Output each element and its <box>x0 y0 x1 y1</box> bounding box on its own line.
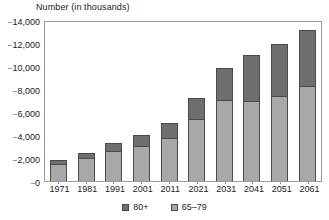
y-axis-tick-mark <box>13 160 17 161</box>
x-axis-tick-mark <box>280 181 281 184</box>
x-axis-tick-label: 1991 <box>105 184 122 198</box>
y-axis-tick-label: 0 <box>35 178 40 188</box>
bar-segment-65-79[interactable] <box>216 100 233 181</box>
bar-column[interactable] <box>216 22 233 181</box>
x-axis-tick-mark <box>86 181 87 184</box>
bar-segment-80-plus[interactable] <box>243 55 260 102</box>
legend-label: 65–79 <box>182 202 207 212</box>
legend-item[interactable]: 80+ <box>122 202 148 212</box>
bar-column[interactable] <box>243 22 260 181</box>
y-axis-tick-label: 14,000 <box>12 17 40 27</box>
bar-segment-65-79[interactable] <box>161 138 178 181</box>
bar-series-group <box>45 22 321 181</box>
x-axis-tick-mark <box>225 181 226 184</box>
y-axis-tick-mark <box>8 68 12 69</box>
chart-axis-title: Number (in thousands) <box>36 2 130 12</box>
bar-column[interactable] <box>105 22 122 181</box>
y-axis-tick-label: 10,000 <box>12 63 40 73</box>
bar-column[interactable] <box>271 22 288 181</box>
x-axis-tick-mark <box>141 181 142 184</box>
bar-column[interactable] <box>161 22 178 181</box>
bar-segment-65-79[interactable] <box>133 146 150 181</box>
bar-segment-80-plus[interactable] <box>188 98 205 119</box>
y-axis-tick-mark <box>8 45 12 46</box>
bar-segment-65-79[interactable] <box>243 101 260 181</box>
bar-column[interactable] <box>188 22 205 181</box>
y-axis-tick-label: 12,000 <box>12 40 40 50</box>
stacked-bar-chart: Number (in thousands) 14,00012,00010,000… <box>0 0 329 220</box>
legend-item[interactable]: 65–79 <box>171 202 207 212</box>
y-axis-tick-mark <box>8 22 12 23</box>
y-axis-tick-mark <box>13 137 17 138</box>
x-axis-tick-label: 2001 <box>133 184 150 198</box>
chart-legend: 80+65–79 <box>0 202 329 212</box>
y-axis-tick-mark <box>13 114 17 115</box>
bar-segment-65-79[interactable] <box>105 151 122 181</box>
bar-column[interactable] <box>133 22 150 181</box>
legend-label: 80+ <box>133 202 148 212</box>
x-axis-tick-mark <box>252 181 253 184</box>
x-axis-tick-mark <box>197 181 198 184</box>
bar-segment-80-plus[interactable] <box>299 30 316 86</box>
legend-swatch-icon <box>122 204 129 211</box>
x-axis-tick-label: 2051 <box>272 184 289 198</box>
x-axis-tick-label: 2061 <box>300 184 317 198</box>
x-axis-tick-mark <box>308 181 309 184</box>
x-axis: 1971198119912001201120212031204120512061 <box>44 184 322 198</box>
bar-column[interactable] <box>299 22 316 181</box>
y-axis-tick-mark <box>13 91 17 92</box>
x-axis-tick-label: 1971 <box>49 184 66 198</box>
bar-segment-80-plus[interactable] <box>133 135 150 146</box>
y-axis-tick-label: 8,000 <box>17 86 40 96</box>
x-axis-tick-mark <box>169 181 170 184</box>
bar-column[interactable] <box>50 22 67 181</box>
bar-segment-65-79[interactable] <box>299 86 316 181</box>
y-axis-tick-label: 2,000 <box>17 155 40 165</box>
x-axis-tick-mark <box>58 181 59 184</box>
x-axis-tick-label: 2021 <box>188 184 205 198</box>
y-axis-tick-mark <box>31 183 35 184</box>
legend-swatch-icon <box>171 204 178 211</box>
y-axis-tick-label: 6,000 <box>17 109 40 119</box>
x-axis-tick-label: 2031 <box>216 184 233 198</box>
bar-segment-65-79[interactable] <box>188 119 205 181</box>
bar-segment-80-plus[interactable] <box>105 143 122 151</box>
plot-area: 14,00012,00010,0008,0006,0004,0002,0000 <box>44 21 322 182</box>
bar-segment-65-79[interactable] <box>271 96 288 181</box>
bar-column[interactable] <box>78 22 95 181</box>
x-axis-tick-label: 1981 <box>77 184 94 198</box>
x-axis-tick-mark <box>113 181 114 184</box>
bar-segment-80-plus[interactable] <box>216 68 233 100</box>
y-axis-tick-label: 4,000 <box>17 132 40 142</box>
bar-segment-80-plus[interactable] <box>161 123 178 139</box>
bar-segment-80-plus[interactable] <box>271 44 288 96</box>
bar-segment-65-79[interactable] <box>50 164 67 181</box>
x-axis-tick-label: 2011 <box>161 184 178 198</box>
x-axis-tick-label: 2041 <box>244 184 261 198</box>
bar-segment-65-79[interactable] <box>78 158 95 181</box>
